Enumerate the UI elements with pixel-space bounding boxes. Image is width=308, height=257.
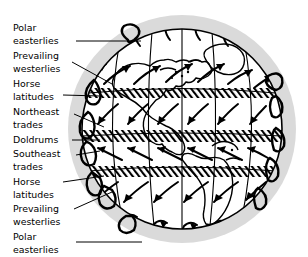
- label-horse-latitudes-north-line1: Horse: [13, 78, 41, 89]
- label-prevailing-westerlies-south-line1: Prevailing: [13, 203, 59, 214]
- label-polar-easterlies-north-line2: easterlies: [13, 35, 59, 46]
- wind-belts-diagram: Polar easterlies Prevailing westerlies H…: [0, 0, 308, 257]
- label-polar-easterlies-north-line1: Polar: [13, 22, 36, 33]
- label-horse-latitudes-south-line1: Horse: [13, 176, 41, 187]
- label-southeast-trades-line1: Southeast: [13, 148, 61, 159]
- diagram-canvas: Polar easterlies Prevailing westerlies H…: [0, 0, 308, 257]
- label-northeast-trades-line1: Northeast: [13, 106, 60, 117]
- label-northeast-trades-line2: trades: [13, 119, 43, 130]
- label-prevailing-westerlies-south-line2: westerlies: [13, 216, 61, 227]
- label-southeast-trades-line2: trades: [13, 161, 43, 172]
- label-prevailing-westerlies-north-line1: Prevailing: [13, 50, 59, 61]
- label-polar-easterlies-south-line1: Polar: [13, 231, 36, 242]
- label-polar-easterlies-south-line2: easterlies: [13, 244, 59, 255]
- label-prevailing-westerlies-north-line2: westerlies: [13, 63, 61, 74]
- label-group: Polar easterlies Prevailing westerlies H…: [13, 22, 61, 255]
- label-horse-latitudes-south-line2: latitudes: [13, 189, 54, 200]
- label-horse-latitudes-north-line2: latitudes: [13, 91, 54, 102]
- label-doldrums: Doldrums: [13, 134, 58, 145]
